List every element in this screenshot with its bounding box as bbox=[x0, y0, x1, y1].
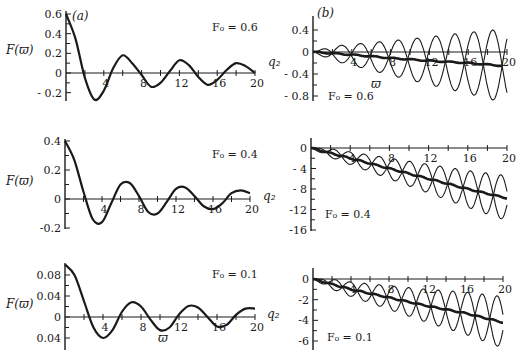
ytick-label: - 4 bbox=[293, 163, 307, 176]
xtick-label: 16 bbox=[463, 152, 477, 165]
annotation-a1: F₀ = 0.6 bbox=[212, 21, 258, 34]
ytick-label: 0.08 bbox=[37, 269, 62, 282]
xtick-label: 4 bbox=[102, 321, 109, 334]
ytick-label: -6 bbox=[298, 335, 309, 348]
annotation-a3: F₀ = 0.1 bbox=[212, 268, 258, 281]
ytick-label: 0.04 bbox=[37, 290, 62, 303]
ytick-label: - 0.4 bbox=[284, 68, 309, 81]
xtick-label: 20 bbox=[245, 203, 259, 216]
xtick-label: 12 bbox=[171, 203, 185, 216]
ytick-label: 0.4 bbox=[292, 24, 310, 37]
ytick-label: 0.6 bbox=[45, 8, 63, 21]
ytick-label: 0 bbox=[54, 311, 61, 324]
xtick-label: 20 bbox=[502, 56, 516, 69]
mean-curve bbox=[311, 148, 507, 199]
ylabel-a1: F(ϖ) bbox=[5, 43, 34, 57]
xlabel-a3: ϖ bbox=[158, 331, 169, 345]
ytick-label: 0 bbox=[300, 142, 307, 155]
xtick-label: 12 bbox=[174, 321, 188, 334]
panel-b-label: (b) bbox=[317, 6, 334, 20]
xtick-label: 20 bbox=[502, 152, 516, 165]
annotation-a2: F₀ = 0.4 bbox=[212, 148, 258, 161]
xtick-label: 8 bbox=[140, 321, 147, 334]
panel-a1: F(ϖ) (a) F₀ = 0.6 bbox=[5, 9, 258, 57]
panel-b3: q₂ F₀ = 0.1 bbox=[267, 307, 373, 344]
ytick-label: -4 bbox=[298, 314, 309, 327]
ytick-label: - 0.2 bbox=[37, 87, 62, 100]
ytick-label: 0.4 bbox=[44, 135, 62, 148]
xtick-label: 20 bbox=[498, 283, 512, 296]
xtick-label: 12 bbox=[424, 152, 438, 165]
xtick-label: 20 bbox=[250, 77, 264, 90]
ylabel-b2: q₂ bbox=[263, 189, 276, 203]
ytick-label: 0 bbox=[54, 193, 61, 206]
plot-b2: 0- 4- 8-12-1648121620 bbox=[289, 138, 516, 237]
figure-canvas: F(ϖ) (a) F₀ = 0.6 (b) q₂ F₀ = 0.6 ϖ F(ϖ)… bbox=[0, 0, 526, 360]
panel-a-label: (a) bbox=[72, 9, 89, 23]
oscillation-curve bbox=[311, 148, 507, 214]
ytick-label: - 8 bbox=[293, 183, 307, 196]
ylabel-b1: q₂ bbox=[268, 55, 281, 69]
ytick-label: -0.2 bbox=[40, 222, 61, 235]
annotation-b3: F₀ = 0.1 bbox=[327, 331, 373, 344]
ytick-label: 0 bbox=[55, 67, 62, 80]
ytick-label: 0.2 bbox=[45, 47, 63, 60]
ytick-label: -2 bbox=[298, 294, 309, 307]
ylabel-b3: q₂ bbox=[267, 307, 280, 321]
ylabel-a2: F(ϖ) bbox=[5, 174, 34, 188]
ytick-label: 0 bbox=[302, 273, 309, 286]
ytick-label: -16 bbox=[289, 224, 307, 237]
ytick-label: 0.2 bbox=[44, 164, 62, 177]
ytick-label: 0 bbox=[302, 46, 309, 59]
ytick-label: 0.4 bbox=[45, 28, 63, 41]
ylabel-a3: F(ϖ) bbox=[5, 297, 34, 311]
annotation-b1: F₀ = 0.6 bbox=[328, 90, 374, 103]
ytick-label: -12 bbox=[289, 204, 307, 217]
panel-b2: q₂ F₀ = 0.4 bbox=[263, 189, 371, 221]
annotation-b2: F₀ = 0.4 bbox=[325, 208, 371, 221]
xtick-label: 16 bbox=[460, 283, 474, 296]
ytick-label: - 0.8 bbox=[284, 90, 309, 103]
plot-b1: 0.40- 0.4- 0.848121620 bbox=[284, 16, 516, 103]
ytick-label: 0.04 bbox=[37, 332, 62, 345]
xtick-label: 4 bbox=[350, 56, 357, 69]
xlabel-b1: ϖ bbox=[371, 77, 382, 91]
xtick-label: 20 bbox=[250, 321, 264, 334]
xtick-label: 12 bbox=[174, 77, 188, 90]
